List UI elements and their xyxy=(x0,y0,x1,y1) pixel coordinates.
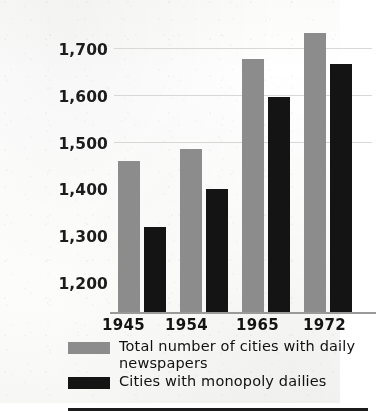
legend-item-total: Total number of cities with daily newspa… xyxy=(68,338,368,372)
legend-label-monopoly: Cities with monopoly dailies xyxy=(119,373,327,390)
legend-swatch-monopoly-icon xyxy=(68,377,110,389)
x-axis-label-1972: 1972 xyxy=(303,316,346,334)
plot-area xyxy=(114,24,372,312)
x-axis-label-1965: 1965 xyxy=(236,316,279,334)
y-axis-label-1300: 1,300 xyxy=(46,230,108,246)
grouped-bar-chart: 1,700 1,600 1,500 1,400 1,300 1,200 19 xyxy=(40,16,300,387)
y-axis-label-1200: 1,200 xyxy=(46,277,108,293)
x-axis-label-1954: 1954 xyxy=(165,316,208,334)
chart-legend: Total number of cities with daily newspa… xyxy=(68,338,368,391)
bar-1945-monopoly[interactable] xyxy=(144,227,166,312)
bar-1965-total[interactable] xyxy=(242,59,264,312)
y-axis-label-1600: 1,600 xyxy=(46,90,108,106)
legend-swatch-total-icon xyxy=(68,342,110,354)
x-axis-label-1945: 1945 xyxy=(102,316,145,334)
bar-1972-monopoly[interactable] xyxy=(330,64,352,312)
y-axis-label-1700: 1,700 xyxy=(46,43,108,59)
gridline-1700 xyxy=(114,48,372,49)
legend-item-monopoly: Cities with monopoly dailies xyxy=(68,373,368,390)
bar-1954-monopoly[interactable] xyxy=(206,189,228,312)
x-axis-baseline xyxy=(110,312,376,314)
legend-label-total: Total number of cities with daily newspa… xyxy=(119,338,363,372)
bar-1945-total[interactable] xyxy=(118,161,140,312)
bar-1972-total[interactable] xyxy=(304,33,326,312)
bar-1954-total[interactable] xyxy=(180,149,202,312)
bar-1965-monopoly[interactable] xyxy=(268,97,290,312)
y-axis-label-1500: 1,500 xyxy=(46,137,108,153)
y-axis-label-1400: 1,400 xyxy=(46,183,108,199)
